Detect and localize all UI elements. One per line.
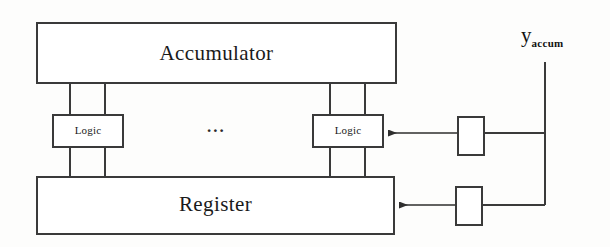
signal-base: y bbox=[521, 23, 532, 47]
signal-label-y-accum: yaccum bbox=[521, 25, 564, 49]
buffer-block-upper[interactable] bbox=[458, 117, 484, 155]
logic-label-right: Logic bbox=[313, 125, 383, 136]
block-diagram: Accumulator Register Logic Logic ... yac… bbox=[0, 0, 610, 247]
buffer-block-lower[interactable] bbox=[456, 187, 482, 225]
signal-subscript: accum bbox=[532, 37, 564, 49]
ellipsis-label: ... bbox=[207, 118, 226, 135]
register-label: Register bbox=[37, 194, 394, 215]
logic-label-left: Logic bbox=[53, 125, 123, 136]
accumulator-label: Accumulator bbox=[37, 43, 396, 64]
arrow-layer bbox=[389, 133, 458, 205]
